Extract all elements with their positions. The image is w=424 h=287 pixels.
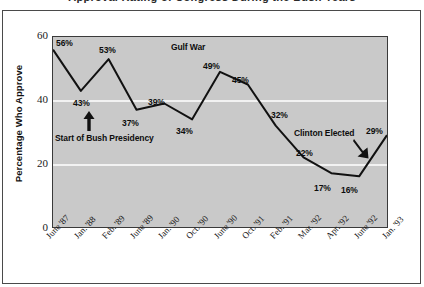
x-tick-0: June'87 [44,213,71,241]
x-tick-11: June'92 [352,213,379,241]
x-tick-3-month: June [128,222,147,241]
x-tick-1: Jan.'88 [72,214,98,240]
x-tick-12: Jan.'93 [380,214,406,240]
x-tick-9: Mar.'92 [296,213,323,241]
x-tick-6: June'90 [212,213,239,241]
x-tick-7: Oct.'91 [240,214,266,241]
x-tick-6-month: June [212,222,231,241]
x-tick-10: Apr.'92 [324,213,351,241]
x-tick-3: June'89 [128,213,155,241]
x-tick-5: Oct.'90 [184,214,210,241]
x-axis-ticks: June'87 Jan.'88 Feb.'89 June'89 Jan.'90 … [0,0,424,287]
x-tick-2-month: Feb. [100,222,118,240]
x-tick-4: Jan.'90 [156,214,182,240]
x-tick-8: Feb.'91 [268,213,295,241]
x-tick-0-month: June [44,222,63,241]
x-tick-8-month: Feb. [268,222,286,240]
x-tick-11-month: June [352,222,371,241]
x-tick-2: Feb.'89 [100,213,127,241]
x-tick-9-month: Mar. [296,222,315,241]
x-tick-10-month: Apr. [324,222,342,240]
